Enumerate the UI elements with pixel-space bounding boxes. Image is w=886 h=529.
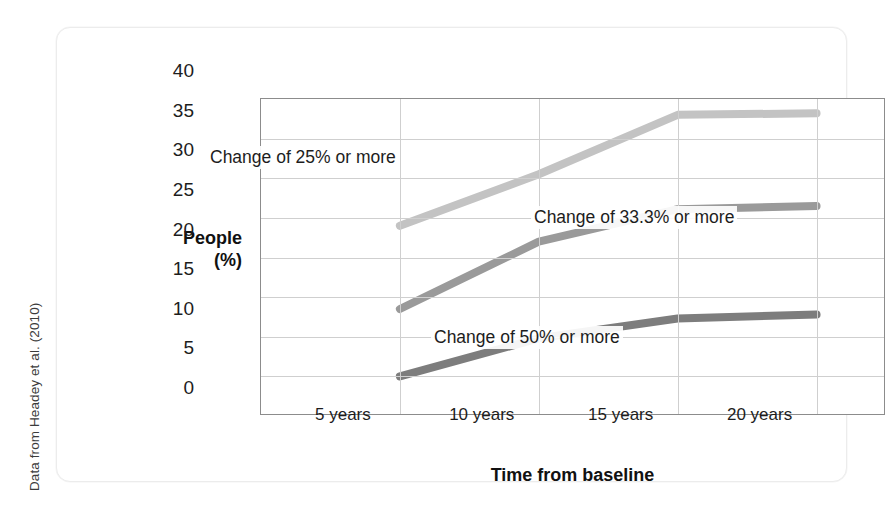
series-annotation-25: Change of 25% or more xyxy=(207,146,399,169)
source-credit: Data from Headey et al. (2010) xyxy=(17,0,51,529)
gridline-horizontal xyxy=(261,178,884,179)
y-axis-tick-label: 15 xyxy=(152,259,194,278)
y-axis-tick-label: 40 xyxy=(152,61,194,80)
x-axis-tick-label: 20 years xyxy=(700,406,820,423)
gridline-horizontal xyxy=(261,139,884,140)
x-axis-title: Time from baseline xyxy=(260,465,885,486)
y-axis-tick-label: 20 xyxy=(152,220,194,239)
y-axis-tick-label: 0 xyxy=(152,378,194,397)
y-axis-tick-label: 25 xyxy=(152,180,194,199)
gridline-vertical xyxy=(678,99,679,414)
y-axis-tick-label: 5 xyxy=(152,338,194,357)
gridline-horizontal xyxy=(261,297,884,298)
figure-card: People (%) 0510152025303540 5 years10 ye… xyxy=(56,27,847,482)
gridline-vertical xyxy=(817,99,818,414)
gridline-horizontal xyxy=(261,258,884,259)
x-axis-tick-label: 5 years xyxy=(283,406,403,423)
x-axis-tick-label: 15 years xyxy=(561,406,681,423)
series-annotation-333: Change of 33.3% or more xyxy=(531,206,737,229)
series-annotation-50: Change of 50% or more xyxy=(431,326,623,349)
y-axis-tick-label: 10 xyxy=(152,299,194,318)
gridline-vertical xyxy=(539,99,540,414)
y-axis-tick-label: 30 xyxy=(152,140,194,159)
y-axis-tick-label: 35 xyxy=(152,101,194,120)
gridline-vertical xyxy=(400,99,401,414)
gridline-horizontal xyxy=(261,376,884,377)
x-axis-tick-label: 10 years xyxy=(422,406,542,423)
